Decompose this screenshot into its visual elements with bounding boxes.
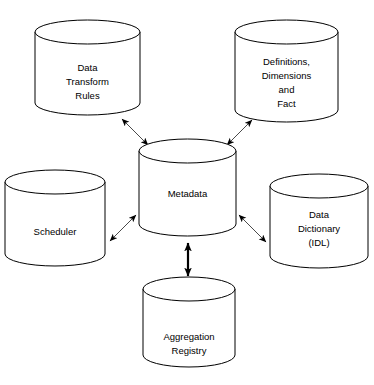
node-data-transform-rules[interactable]: Data Transform Rules [35,20,140,115]
cylinder-top [235,20,338,44]
node-label-line: Metadata [168,188,208,199]
node-label-line: Definitions, [263,56,310,67]
node-metadata[interactable]: Metadata [139,139,236,236]
cylinder-top [5,170,105,194]
cylinder-top [143,277,235,301]
cylinder-top [139,139,236,163]
connector-metadata-definitions-dimensions-fact [227,120,252,145]
connector-metadata-data-dictionary-idl [239,215,266,242]
node-scheduler[interactable]: Scheduler [5,170,105,266]
diagram-canvas: Data Transform Rules Definitions, Dimens… [0,0,374,385]
cylinder-top [270,174,368,198]
node-label-line: Aggregation [163,331,214,342]
node-label-line: Transform [66,76,109,87]
node-label-line: Scheduler [34,226,77,237]
node-data-dictionary-idl[interactable]: Data Dictionary (IDL) [270,174,368,268]
node-definitions-dimensions-fact[interactable]: Definitions, Dimensions and Fact [235,20,338,122]
node-label-line: Dictionary [298,223,340,234]
cylinder-body [5,182,105,266]
node-label-line: Registry [172,345,207,356]
node-label-line: (IDL) [308,237,329,248]
node-label-line: Data [309,209,330,220]
metadata-architecture-diagram: Data Transform Rules Definitions, Dimens… [0,0,374,385]
node-aggregation-registry[interactable]: Aggregation Registry [143,277,235,367]
node-label-line: Dimensions [262,70,312,81]
cylinder-top [35,20,140,44]
node-label-line: Fact [277,98,296,109]
node-label-line: and [279,84,295,95]
node-label-line: Data [77,62,98,73]
connector-metadata-scheduler [110,215,136,241]
connector-metadata-data-transform-rules [122,119,148,145]
node-label-line: Rules [75,90,100,101]
